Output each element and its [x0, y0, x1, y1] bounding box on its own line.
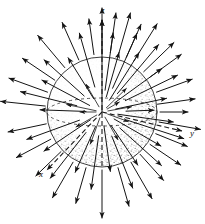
field-vector [76, 168, 86, 204]
field-vector [110, 13, 116, 53]
field-vector [157, 99, 195, 104]
field-vector [134, 24, 157, 61]
field-vector [38, 35, 65, 67]
field-vector [150, 144, 181, 165]
axis-label-y: y [189, 128, 194, 138]
field-vector-figure: z y x [0, 0, 205, 224]
field-vector [89, 19, 94, 55]
field-vector [140, 154, 163, 180]
field-vector [22, 58, 54, 80]
field-vector [8, 124, 46, 132]
field-vector [62, 22, 79, 59]
field-vector [53, 162, 74, 198]
field-vector [151, 54, 182, 76]
axis-label-x: x [38, 169, 43, 179]
field-vector [157, 79, 193, 92]
field-vector [156, 134, 188, 147]
field-vector [159, 122, 200, 129]
field-vector [16, 139, 50, 157]
field-vector [119, 13, 130, 52]
axis-label-z: z [100, 5, 105, 15]
figure-canvas: z y x [0, 0, 205, 224]
field-vector [131, 162, 152, 198]
field-vector [1, 101, 46, 106]
